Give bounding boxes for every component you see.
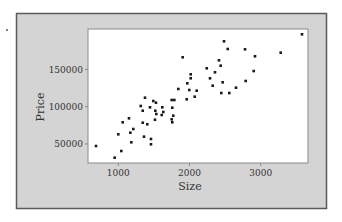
data-point (95, 145, 98, 148)
plot-area (88, 29, 308, 163)
stray-mark (6, 29, 8, 31)
data-point (129, 131, 132, 134)
data-point (221, 81, 224, 84)
data-point (150, 138, 153, 141)
data-point (244, 80, 247, 83)
data-point (235, 86, 238, 89)
data-point (211, 84, 214, 87)
y-axis-title: Price (34, 93, 47, 122)
data-point (185, 98, 188, 101)
y-tick-label: 50000 (54, 139, 83, 149)
data-point (121, 121, 124, 124)
data-point (301, 33, 304, 36)
data-point (143, 135, 146, 138)
data-point (117, 133, 120, 136)
data-point (171, 121, 174, 124)
data-point (209, 77, 212, 80)
data-point (132, 128, 135, 131)
data-point (193, 95, 196, 98)
data-point (149, 106, 152, 109)
data-point (214, 71, 217, 74)
data-point (188, 89, 191, 92)
x-tick-label: 1000 (107, 168, 130, 178)
data-point (146, 123, 149, 126)
data-point (162, 111, 165, 114)
data-point (155, 113, 158, 116)
data-point (171, 106, 174, 109)
data-point (154, 109, 157, 112)
data-point (195, 89, 198, 92)
data-point (173, 99, 176, 102)
data-point (226, 48, 229, 51)
data-point (113, 156, 116, 159)
data-point (279, 51, 282, 54)
data-point (144, 96, 147, 99)
data-point (172, 114, 175, 117)
data-point (152, 100, 155, 103)
data-point (141, 121, 144, 124)
data-point (155, 101, 158, 104)
data-point (177, 88, 180, 91)
data-point (139, 105, 142, 108)
data-point (150, 143, 153, 146)
data-point (223, 40, 226, 43)
data-point (160, 114, 163, 117)
data-point (181, 56, 184, 59)
data-point (219, 64, 222, 67)
data-point (141, 109, 144, 112)
data-point (161, 106, 164, 109)
data-point (120, 150, 123, 153)
y-tick-label: 150000 (49, 65, 84, 75)
x-tick-label: 3000 (249, 168, 272, 178)
data-point (189, 77, 192, 80)
data-point (130, 141, 133, 144)
data-point (154, 118, 157, 121)
data-point (186, 82, 189, 85)
data-point (228, 92, 231, 95)
data-point (218, 59, 221, 62)
scatter-chart: 10002000300050000100000150000 Size Price (0, 0, 342, 222)
x-axis-title: Size (178, 180, 201, 193)
chart-svg: 10002000300050000100000150000 Size Price (0, 0, 342, 222)
data-point (128, 117, 131, 120)
x-tick-label: 2000 (178, 168, 201, 178)
data-point (254, 55, 257, 58)
data-point (220, 92, 223, 95)
data-point (170, 99, 173, 102)
data-point (189, 73, 192, 76)
data-point (170, 118, 173, 121)
y-tick-label: 100000 (49, 102, 84, 112)
data-point (244, 48, 247, 51)
data-point (205, 67, 208, 70)
data-point (252, 70, 255, 73)
